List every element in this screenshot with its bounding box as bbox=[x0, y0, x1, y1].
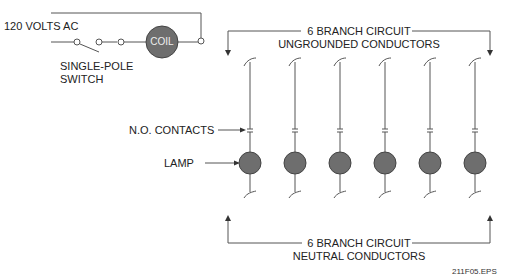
break-symbol-icon bbox=[289, 58, 301, 129]
lamp-icon bbox=[374, 152, 396, 174]
top-bracket-line2: UNGROUNDED CONDUCTORS bbox=[259, 38, 459, 50]
lamp-icon bbox=[239, 152, 261, 174]
arrow-right-icon bbox=[240, 128, 246, 133]
break-symbol-icon bbox=[244, 174, 256, 198]
break-symbol-icon bbox=[424, 174, 436, 198]
switch-terminal-2 bbox=[96, 39, 102, 45]
contacts-label: N.O. CONTACTS bbox=[129, 124, 214, 136]
source-label: 120 VOLTS AC bbox=[4, 20, 78, 32]
break-symbol-icon bbox=[289, 174, 301, 198]
break-symbol-icon bbox=[379, 174, 391, 198]
arrow-down-icon bbox=[487, 50, 493, 56]
switch-terminal-1 bbox=[74, 39, 80, 45]
arrow-down-icon bbox=[225, 50, 231, 56]
terminal-3 bbox=[118, 39, 124, 45]
arrow-up-icon bbox=[487, 215, 493, 221]
lamp-icon bbox=[419, 152, 441, 174]
terminal-4 bbox=[198, 38, 204, 44]
lamp-icon bbox=[284, 152, 306, 174]
figure-id: 211F05.EPS bbox=[452, 266, 497, 278]
break-symbol-icon bbox=[244, 58, 256, 129]
lamp-label: LAMP bbox=[164, 157, 194, 169]
top-bracket-line1: 6 BRANCH CIRCUIT bbox=[259, 25, 459, 37]
switch-label-line2: SWITCH bbox=[60, 73, 103, 85]
bottom-bracket-line1: 6 BRANCH CIRCUIT bbox=[259, 237, 459, 249]
break-symbol-icon bbox=[334, 174, 346, 198]
switch-label-line1: SINGLE-POLE bbox=[60, 60, 133, 72]
break-symbol-icon bbox=[469, 58, 481, 129]
break-symbol-icon bbox=[334, 58, 346, 129]
switch-blade bbox=[80, 44, 99, 52]
break-symbol-icon bbox=[424, 58, 436, 129]
lamp-icon bbox=[464, 152, 486, 174]
coil-label: COIL bbox=[145, 36, 179, 48]
break-symbol-icon bbox=[469, 174, 481, 198]
bottom-bracket-line2: NEUTRAL CONDUCTORS bbox=[259, 250, 459, 262]
lamp-icon bbox=[329, 152, 351, 174]
break-symbol-icon bbox=[379, 58, 391, 129]
arrow-up-icon bbox=[225, 215, 231, 221]
